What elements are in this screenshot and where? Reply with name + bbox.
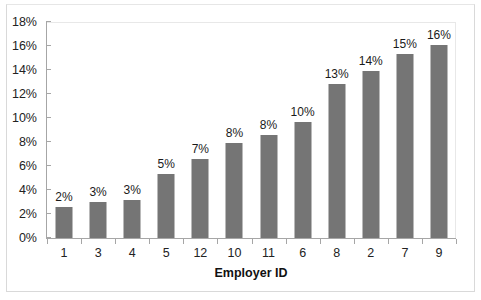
bar-slot: 3% (115, 22, 149, 238)
x-tick-mark (456, 239, 457, 244)
x-tick-mark (183, 239, 184, 244)
y-tick-label: 10% (12, 109, 37, 127)
y-tick-label: 16% (12, 37, 37, 55)
bar-slot: 5% (149, 22, 183, 238)
bar[interactable] (396, 54, 413, 238)
bar[interactable] (90, 202, 107, 238)
y-tick-label: 8% (19, 133, 37, 151)
bar-data-label: 8% (260, 118, 277, 132)
x-tick-mark (47, 239, 48, 244)
x-category-label: 12 (193, 246, 207, 260)
x-tick-mark (286, 239, 287, 244)
x-category-label: 10 (228, 246, 242, 260)
bar[interactable] (56, 207, 73, 238)
y-tick-label: 14% (12, 61, 37, 79)
bar-slot: 15% (388, 22, 422, 238)
bar-slot: 10% (286, 22, 320, 238)
x-category-label: 8 (333, 246, 340, 260)
bar[interactable] (362, 71, 379, 238)
bar-slot: 3% (81, 22, 115, 238)
x-category-label: 2 (367, 246, 374, 260)
y-tick-label: 18% (12, 13, 37, 31)
bar-slot: 14% (354, 22, 388, 238)
bar-data-label: 10% (291, 105, 315, 119)
x-category-label: 4 (129, 246, 136, 260)
bar-chart-figure: 0%2%4%6%8%10%12%14%16%18% 2%3%3%5%7%8%8%… (0, 0, 481, 300)
bar-slot: 8% (252, 22, 286, 238)
bar-data-label: 16% (427, 28, 451, 42)
bar-data-label: 15% (393, 37, 417, 51)
y-tick-label: 4% (19, 181, 37, 199)
x-category-label: 3 (95, 246, 102, 260)
bar-slot: 13% (320, 22, 354, 238)
bar-data-label: 3% (89, 185, 106, 199)
x-category-label: 7 (401, 246, 408, 260)
y-tick-label: 12% (12, 85, 37, 103)
x-tick-mark (320, 239, 321, 244)
x-tick-mark (252, 239, 253, 244)
bar-slot: 16% (422, 22, 456, 238)
x-category-label: 6 (299, 246, 306, 260)
x-category-label: 9 (435, 246, 442, 260)
bar[interactable] (226, 143, 243, 238)
y-tick-label: 2% (19, 205, 37, 223)
bar[interactable] (430, 45, 447, 238)
x-category-label: 1 (61, 246, 68, 260)
x-tick-mark (422, 239, 423, 244)
x-axis-title: Employer ID (46, 266, 456, 280)
x-tick-mark (81, 239, 82, 244)
bar-data-label: 8% (226, 126, 243, 140)
x-category-label: 5 (163, 246, 170, 260)
bar[interactable] (260, 135, 277, 238)
y-tick-label: 6% (19, 157, 37, 175)
bar[interactable] (328, 84, 345, 238)
bar-slot: 2% (47, 22, 81, 238)
x-tick-mark (149, 239, 150, 244)
x-category-label: 11 (262, 246, 275, 260)
bar-slot: 7% (183, 22, 217, 238)
bar[interactable] (124, 200, 141, 238)
bar-data-label: 5% (158, 157, 175, 171)
x-tick-mark (388, 239, 389, 244)
x-tick-mark (217, 239, 218, 244)
bar[interactable] (192, 159, 209, 238)
bar[interactable] (294, 122, 311, 238)
bars-layer: 2%3%3%5%7%8%8%10%13%14%15%16% (47, 22, 456, 238)
bar-data-label: 2% (55, 190, 72, 204)
bar-data-label: 7% (192, 142, 209, 156)
bar-data-label: 13% (325, 67, 349, 81)
bar-data-label: 14% (359, 54, 383, 68)
x-tick-mark (115, 239, 116, 244)
bar[interactable] (158, 174, 175, 238)
bar-data-label: 3% (124, 183, 141, 197)
y-tick-label: 0% (19, 229, 37, 247)
bar-slot: 8% (217, 22, 251, 238)
x-tick-mark (354, 239, 355, 244)
